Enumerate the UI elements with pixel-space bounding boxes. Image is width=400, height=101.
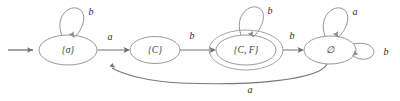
- transition-empty-self-loop-b: b: [353, 43, 389, 59]
- transition-sigma-to-C: a: [98, 31, 131, 53]
- diagram-canvas: b {σ} a {C} b b: [0, 0, 400, 101]
- state-node-CF[interactable]: {C, F}: [209, 30, 283, 70]
- state-C-label: {C}: [148, 45, 162, 55]
- transition-sigma-self-loop: b: [60, 6, 94, 37]
- state-empty-label: ∅: [326, 45, 335, 55]
- edge-label-empty-to-C: a: [248, 84, 253, 95]
- empty-to-C-arrow-head: [110, 63, 116, 68]
- CF-loop-arrow-head: [248, 31, 253, 37]
- state-node-sigma[interactable]: {σ}: [39, 35, 97, 65]
- state-diagram-figure: b {σ} a {C} b b: [0, 0, 400, 101]
- state-sigma-label: {σ}: [62, 45, 74, 55]
- transition-C-to-CF: b: [180, 30, 216, 53]
- state-node-empty[interactable]: ∅: [304, 36, 356, 64]
- empty-loop-a-path: [323, 8, 347, 37]
- transition-CF-self-loop: b: [239, 5, 272, 37]
- transition-empty-self-loop-a: a: [323, 6, 357, 37]
- edge-label-CF-to-empty: b: [290, 30, 295, 41]
- state-node-C[interactable]: {C}: [130, 37, 180, 64]
- edge-label-sigma-to-C: a: [108, 31, 113, 42]
- transition-empty-to-C: a: [110, 63, 328, 95]
- edge-label-empty-loop-b: b: [384, 46, 389, 57]
- start-marker: [8, 47, 33, 53]
- edge-label-C-to-CF: b: [190, 30, 195, 41]
- sigma-loop-arrow-head: [69, 31, 74, 37]
- transition-CF-to-empty: b: [283, 30, 304, 53]
- edge-label-sigma-loop: b: [89, 6, 94, 17]
- state-CF-label: {C, F}: [234, 45, 259, 55]
- edge-label-CF-loop: b: [268, 5, 273, 16]
- empty-to-C-curve: [112, 64, 327, 84]
- edge-label-empty-loop-a: a: [353, 6, 358, 17]
